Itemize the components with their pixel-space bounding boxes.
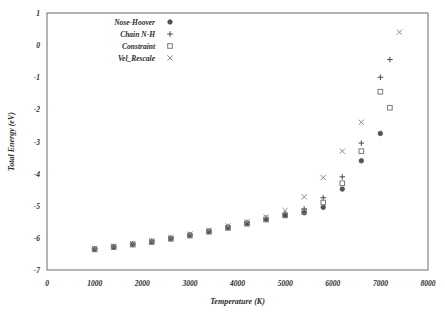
data-point-chain-n-h [320, 195, 326, 201]
legend-marker-square-icon [168, 44, 173, 49]
data-point-chain-n-h [359, 140, 365, 146]
x-axis-title: Temperature (K) [210, 297, 265, 306]
data-point-vel-rescale [302, 194, 307, 199]
y-tick-label--5: -5 [34, 202, 40, 211]
data-point-vel-rescale [340, 149, 345, 154]
legend-label-nose-hoover: Nose-Hoover [113, 18, 155, 27]
legend-marker-circle-icon [168, 20, 173, 25]
data-point-constraint [340, 181, 345, 186]
data-point-constraint [321, 200, 326, 205]
plot-frame [47, 13, 428, 270]
data-point-constraint [378, 89, 383, 94]
data-point-constraint [359, 149, 364, 154]
data-point-chain-n-h [378, 74, 384, 80]
legend-label-chain-n-h: Chain N-H [120, 30, 156, 39]
legend-marker-plus-icon [167, 31, 173, 37]
x-tick-label-2000: 2000 [134, 279, 150, 288]
y-tick-label--7: -7 [34, 266, 40, 275]
legend-label-vel-rescale: Vel_Rescale [118, 54, 156, 63]
data-point-nose-hoover [378, 131, 383, 136]
data-point-constraint [388, 105, 393, 110]
x-tick-label-1000: 1000 [87, 279, 102, 288]
legend-label-constraint: Constraint [122, 42, 156, 51]
y-tick-label--2: -2 [34, 105, 40, 114]
y-tick-label--6: -6 [34, 234, 40, 243]
y-tick-label-0: 0 [36, 41, 40, 50]
data-point-chain-n-h [387, 57, 393, 63]
x-tick-label-8000: 8000 [421, 279, 436, 288]
data-point-vel-rescale [397, 30, 402, 35]
data-point-vel-rescale [359, 120, 364, 125]
data-point-nose-hoover [340, 187, 345, 192]
y-tick-label--3: -3 [34, 138, 40, 147]
x-tick-label-3000: 3000 [181, 279, 197, 288]
data-point-nose-hoover [321, 205, 326, 210]
data-point-vel-rescale [321, 175, 326, 180]
x-tick-label-5000: 5000 [278, 279, 293, 288]
legend-marker-x-icon [167, 55, 172, 60]
y-tick-label--4: -4 [34, 170, 40, 179]
x-tick-label-4000: 4000 [229, 279, 245, 288]
y-tick-label-1: 1 [36, 9, 40, 18]
x-tick-label-7000: 7000 [373, 279, 388, 288]
y-axis-title: Total Energy (eV) [7, 112, 16, 171]
x-tick-label-6000: 6000 [325, 279, 340, 288]
scatter-plot: 01000200030004000500060007000800010-1-2-… [0, 0, 445, 312]
data-point-chain-n-h [339, 174, 345, 180]
y-tick-label--1: -1 [34, 73, 40, 82]
chart-container: 01000200030004000500060007000800010-1-2-… [0, 0, 445, 312]
x-tick-label-0: 0 [45, 279, 49, 288]
data-point-nose-hoover [359, 158, 364, 163]
